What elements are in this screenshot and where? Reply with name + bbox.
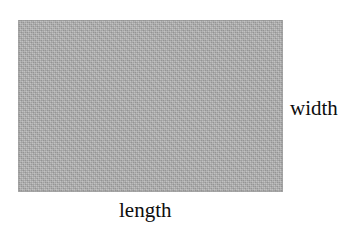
width-label: width: [290, 98, 338, 119]
length-label: length: [119, 200, 172, 221]
rectangle-shape: [18, 20, 283, 192]
diagram-canvas: width length: [0, 0, 358, 249]
